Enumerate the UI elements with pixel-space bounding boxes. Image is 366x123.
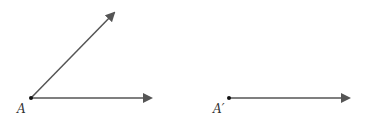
ray-A-upper	[31, 13, 114, 98]
label-A-prime: A′	[212, 102, 225, 116]
diagram-canvas: A A′	[0, 0, 366, 123]
point-A	[29, 96, 33, 100]
ray-A-prime-group: A′	[212, 96, 349, 116]
point-A-prime	[227, 96, 231, 100]
geometry-figure: A A′	[0, 0, 366, 123]
label-A: A	[16, 102, 26, 116]
angle-A: A	[16, 13, 151, 116]
